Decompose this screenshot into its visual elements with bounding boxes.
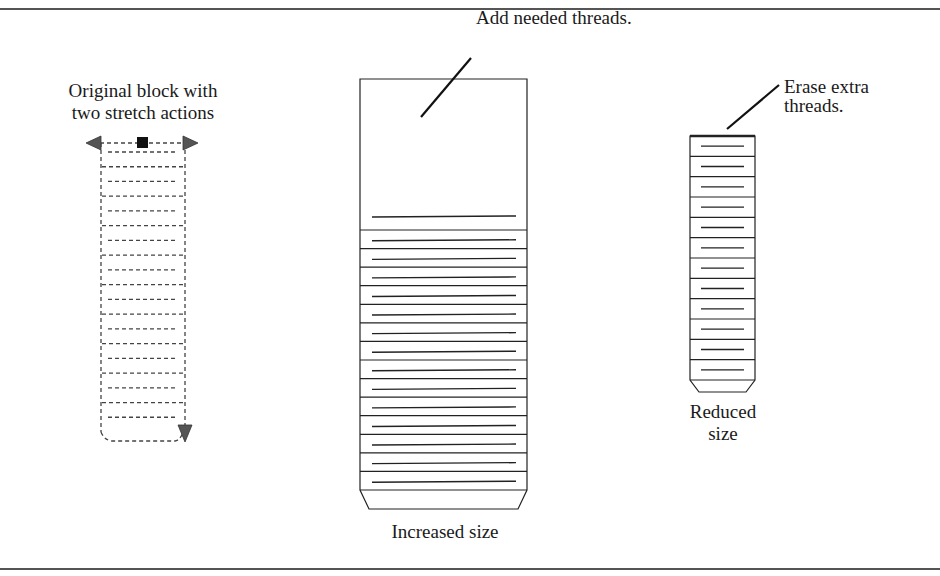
grip-square-icon[interactable] <box>137 137 148 148</box>
reduced-caption: Reduced size <box>672 401 774 445</box>
thread-line <box>372 425 516 426</box>
erase-threads-annotation: Erase extra threads. <box>784 76 869 117</box>
thread-line <box>372 240 516 241</box>
thread-line <box>372 351 516 352</box>
reduced-caption-line1: Reduced <box>672 401 774 423</box>
thread-line <box>372 277 516 278</box>
add-threads-annotation: Add needed threads. <box>476 7 632 29</box>
reduced-block-outline <box>690 136 755 392</box>
increased-thread-bands <box>360 230 527 490</box>
original-block-bottom-edge <box>101 425 185 441</box>
add-threads-leader-line <box>421 58 471 117</box>
thread-line <box>372 481 516 482</box>
increased-caption: Increased size <box>360 521 530 543</box>
thread-line <box>372 333 516 334</box>
original-caption: Original block with two stretch actions <box>62 80 224 124</box>
added-thread-line <box>372 216 516 217</box>
stretch-left-arrow-icon[interactable] <box>86 136 101 150</box>
original-thread-rows <box>102 152 184 417</box>
reduced-thread-bands <box>690 146 755 380</box>
reduced-caption-line2: size <box>672 423 774 445</box>
thread-line <box>372 314 516 315</box>
original-caption-line1: Original block with <box>62 80 224 102</box>
thread-line <box>372 444 516 445</box>
erase-annotation-line2: threads. <box>784 95 869 117</box>
stretch-down-arrow-icon[interactable] <box>178 425 192 442</box>
thread-line <box>372 258 516 259</box>
thread-line <box>372 295 516 296</box>
thread-line <box>372 388 516 389</box>
original-dynamic-block <box>100 143 186 441</box>
thread-line <box>372 407 516 408</box>
thread-line <box>372 463 516 464</box>
stretch-right-arrow-icon[interactable] <box>183 136 198 150</box>
increased-size-block <box>360 79 527 509</box>
erase-threads-leader-line <box>727 85 779 129</box>
thread-line <box>372 370 516 371</box>
original-caption-line2: two stretch actions <box>62 102 224 124</box>
reduced-size-block <box>690 136 755 392</box>
